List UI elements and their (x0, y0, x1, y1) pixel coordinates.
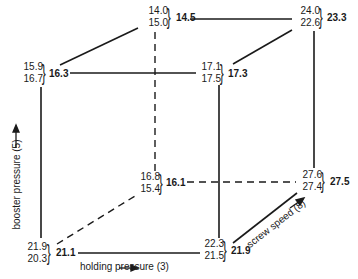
brace: } (223, 239, 227, 261)
value: 22.6 (292, 17, 320, 29)
brace: } (47, 242, 51, 264)
corner-top-back-right-average: 23.3 (327, 12, 346, 24)
corner-bottom-back-left-values: 16.8 15.4 (132, 171, 160, 195)
brace: } (159, 172, 163, 194)
value: 15.0 (140, 17, 168, 29)
value: 17.5 (194, 73, 221, 85)
value: 15.4 (132, 183, 160, 195)
corner-top-back-right-values: 24.0 22.6 (292, 5, 320, 29)
value: 20.3 (20, 253, 47, 265)
booster-pressure-axis-label: booster pressure (5) (11, 135, 22, 235)
cube-diagram: 14.0 15.0 } 14.5 24.0 22.6 } 23.3 15.9 1… (0, 0, 358, 279)
corner-top-back-left-values: 14.0 15.0 (140, 5, 168, 29)
brace: } (42, 62, 46, 84)
value: 27.6 (294, 169, 322, 181)
corner-bottom-front-right-values: 22.3 21.5 (197, 238, 224, 262)
edge-top-right-depth (233, 30, 292, 64)
corner-top-front-left-values: 15.9 16.7 (16, 61, 43, 85)
edge-top-left-depth (60, 28, 138, 65)
value: 16.7 (16, 73, 43, 85)
value: 17.1 (194, 61, 221, 73)
value: 14.0 (140, 5, 168, 17)
value: 22.3 (197, 238, 224, 250)
corner-top-back-left-average: 14.5 (176, 12, 195, 24)
corner-top-front-right-average: 17.3 (228, 68, 247, 80)
corner-bottom-back-right-average: 27.5 (330, 176, 349, 188)
value: 16.8 (132, 171, 160, 183)
corner-bottom-back-left-average: 16.1 (166, 177, 185, 189)
corner-top-front-right-values: 17.1 17.5 (194, 61, 221, 85)
brace: } (319, 6, 323, 28)
corner-bottom-front-left-average: 21.1 (56, 247, 75, 259)
value: 24.0 (292, 5, 320, 17)
corner-bottom-back-right-values: 27.6 27.4 (294, 169, 322, 193)
corner-top-front-left-average: 16.3 (49, 68, 68, 80)
value: 15.9 (16, 61, 43, 73)
cube-edges (0, 0, 358, 279)
edge-bottom-left-depth (57, 196, 135, 244)
value: 27.4 (294, 181, 322, 193)
holding-pressure-axis-label: holding pressure (3) (80, 261, 169, 272)
brace: } (321, 170, 325, 192)
value: 21.5 (197, 250, 224, 262)
brace: } (220, 62, 224, 84)
corner-bottom-front-left-values: 21.9 20.3 (20, 241, 47, 265)
value: 21.9 (20, 241, 47, 253)
brace: } (167, 6, 171, 28)
